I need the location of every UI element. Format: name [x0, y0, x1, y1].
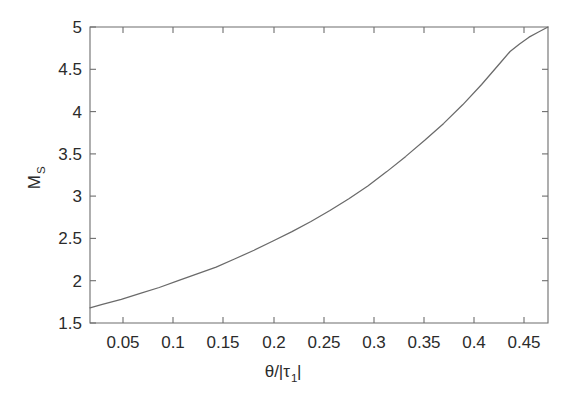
y-tick-label: 2 — [73, 272, 82, 291]
x-axis-ticks — [123, 317, 524, 323]
x-tick-label: 0.45 — [507, 333, 540, 352]
y-axis-title: M S — [25, 166, 47, 189]
data-series-curve — [90, 27, 548, 308]
x-tick-label: 0.15 — [206, 333, 239, 352]
y-axis-ticks — [90, 27, 96, 323]
y-tick-label: 3 — [73, 187, 82, 206]
x-tick-label: 0.1 — [161, 333, 185, 352]
x-tick-labels: 0.05 0.1 0.15 0.2 0.25 0.3 0.35 0.4 0.45 — [106, 333, 540, 352]
x-axis-title-main: θ/|τ — [265, 362, 291, 381]
x-tick-label: 0.3 — [362, 333, 386, 352]
y-tick-label: 4 — [73, 103, 82, 122]
axes-frame — [90, 27, 548, 323]
x-axis-title: θ/|τ 1 | — [265, 362, 302, 384]
x-axis-ticks-top — [123, 27, 524, 33]
figure-container: 5 4.5 4 3.5 3 2.5 2 1.5 0.05 0.1 0.15 0.… — [0, 0, 579, 404]
y-axis-title-subscript: S — [35, 166, 47, 174]
x-axis-title-tail: | — [297, 362, 301, 381]
y-tick-label: 5 — [73, 18, 82, 37]
y-tick-label: 3.5 — [58, 145, 82, 164]
y-tick-label: 2.5 — [58, 229, 82, 248]
x-tick-label: 0.05 — [106, 333, 139, 352]
y-tick-label: 4.5 — [58, 60, 82, 79]
y-axis-title-main: M — [25, 175, 44, 189]
y-axis-ticks-right — [542, 69, 548, 280]
y-tick-label: 1.5 — [58, 314, 82, 333]
x-tick-label: 0.25 — [307, 333, 340, 352]
x-tick-label: 0.2 — [262, 333, 286, 352]
x-tick-label: 0.35 — [407, 333, 440, 352]
x-tick-label: 0.4 — [462, 333, 486, 352]
y-tick-labels: 5 4.5 4 3.5 3 2.5 2 1.5 — [58, 18, 82, 333]
line-chart: 5 4.5 4 3.5 3 2.5 2 1.5 0.05 0.1 0.15 0.… — [0, 0, 579, 404]
